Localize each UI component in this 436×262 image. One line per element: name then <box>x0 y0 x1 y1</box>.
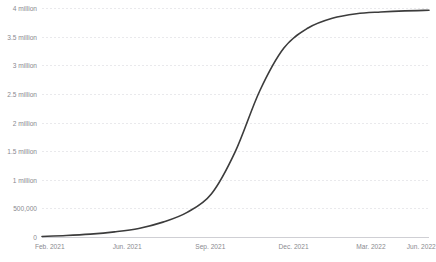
series-line-cumulative-total <box>42 10 429 236</box>
